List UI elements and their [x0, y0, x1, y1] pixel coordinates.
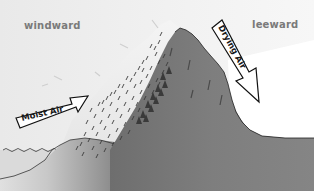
- windward-label: windward: [24, 20, 81, 31]
- leeward-label: leeward: [252, 19, 298, 30]
